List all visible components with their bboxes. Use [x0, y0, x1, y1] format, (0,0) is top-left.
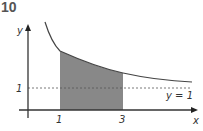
y-tick-1: 1 [16, 83, 22, 94]
x-tick-3: 3 [119, 114, 125, 125]
y-axis-arrow-icon [25, 24, 31, 31]
asymptote-label: y = 1 [165, 90, 193, 101]
y-axis-label: y [16, 25, 24, 36]
x-axis-label: x [192, 115, 199, 126]
x-axis-arrow-icon [191, 107, 198, 113]
graph: y x 1 3 1 y = 1 [0, 0, 203, 131]
shaded-region [60, 51, 123, 110]
x-tick-1: 1 [56, 114, 62, 125]
